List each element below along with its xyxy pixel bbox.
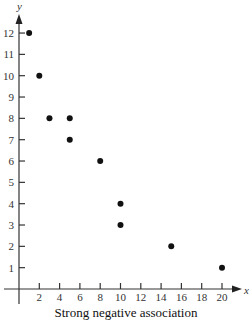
scatter-plot: 2468101214161820 123456789101112 x y <box>0 0 252 325</box>
y-tick-label: 8 <box>9 112 15 124</box>
x-tick-label: 16 <box>176 291 188 303</box>
y-axis-ticks: 123456789101112 <box>3 27 25 274</box>
x-tick-label: 12 <box>135 291 146 303</box>
x-tick-label: 10 <box>115 291 127 303</box>
data-point <box>219 265 225 271</box>
data-point <box>36 73 42 79</box>
data-point <box>67 137 73 143</box>
y-tick-label: 9 <box>9 91 15 103</box>
y-tick-label: 1 <box>9 262 15 274</box>
data-point <box>26 30 32 36</box>
data-point <box>118 201 124 207</box>
y-tick-label: 10 <box>3 70 15 82</box>
x-axis-label: x <box>243 284 249 296</box>
chart-caption: Strong negative association <box>0 305 252 321</box>
x-tick-label: 18 <box>196 291 208 303</box>
y-tick-label: 5 <box>9 176 15 188</box>
x-axis-arrow-icon <box>232 286 242 293</box>
data-point <box>67 115 73 121</box>
x-tick-label: 14 <box>156 291 168 303</box>
y-tick-label: 3 <box>9 219 15 231</box>
y-tick-label: 2 <box>9 240 15 252</box>
y-axis-arrow-icon <box>16 14 23 24</box>
y-tick-label: 11 <box>3 48 14 60</box>
data-points <box>26 30 225 271</box>
x-tick-label: 4 <box>57 291 63 303</box>
y-tick-label: 12 <box>3 27 14 39</box>
y-axis-label: y <box>16 0 22 12</box>
data-point <box>168 243 174 249</box>
x-axis-ticks: 2468101214161820 <box>37 283 228 303</box>
x-tick-label: 6 <box>77 291 83 303</box>
data-point <box>97 158 103 164</box>
y-tick-label: 7 <box>9 134 15 146</box>
y-tick-label: 6 <box>9 155 15 167</box>
x-tick-label: 2 <box>37 291 43 303</box>
x-tick-label: 20 <box>217 291 229 303</box>
axes <box>4 14 242 304</box>
y-tick-label: 4 <box>9 198 15 210</box>
x-tick-label: 8 <box>97 291 103 303</box>
data-point <box>118 222 124 228</box>
data-point <box>46 115 52 121</box>
